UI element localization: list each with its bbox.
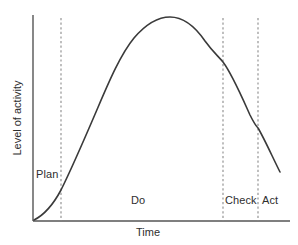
chart-canvas [0, 0, 298, 245]
pdca-activity-chart: Level of activity Time Plan Do Check Act [0, 0, 298, 245]
phase-label-do: Do [131, 194, 145, 206]
x-axis-label: Time [33, 226, 263, 238]
phase-label-plan: Plan [36, 168, 58, 180]
activity-curve [34, 17, 280, 220]
phase-label-check: Check [225, 194, 257, 206]
y-axis-label: Level of activity [11, 63, 23, 173]
phase-label-act: Act [262, 194, 278, 206]
